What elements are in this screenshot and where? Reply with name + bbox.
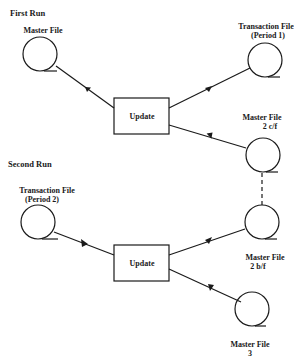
- label-master-file-2cf-suffix: 2 c/f: [263, 122, 277, 131]
- tape-reel-icon-master-file-3: [235, 292, 269, 326]
- tape-reel-icon-transaction-file-2: [21, 205, 58, 239]
- label-master-file-3: Master File: [230, 340, 269, 349]
- update-label-1: Update: [130, 112, 155, 121]
- tape-reel-icon-master-file-2cf: [246, 138, 280, 172]
- label-master-file-1: Master File: [23, 26, 62, 35]
- label-transaction-file-2-period: (Period 2): [25, 195, 59, 204]
- tape-reel-icon-transaction-file-1: [248, 43, 282, 77]
- label-transaction-file-1: Transaction File: [238, 22, 294, 31]
- diagram-canvas: [0, 0, 294, 359]
- label-master-file-2cf: Master File: [242, 113, 281, 122]
- label-master-file-2bf-suffix: 2 b/f: [250, 262, 265, 271]
- tape-reel-icon-master-file-1: [23, 37, 57, 71]
- section-heading-second-run: Second Run: [8, 160, 52, 169]
- tape-reel-icon-master-file-2bf: [245, 205, 279, 239]
- label-transaction-file-1-period: (Period 1): [251, 31, 285, 40]
- label-transaction-file-2: Transaction File: [19, 186, 75, 195]
- label-master-file-3-suffix: 3: [248, 349, 252, 358]
- update-label-2: Update: [130, 259, 155, 268]
- section-heading-first-run: First Run: [10, 9, 45, 18]
- label-master-file-2bf: Master File: [245, 253, 284, 262]
